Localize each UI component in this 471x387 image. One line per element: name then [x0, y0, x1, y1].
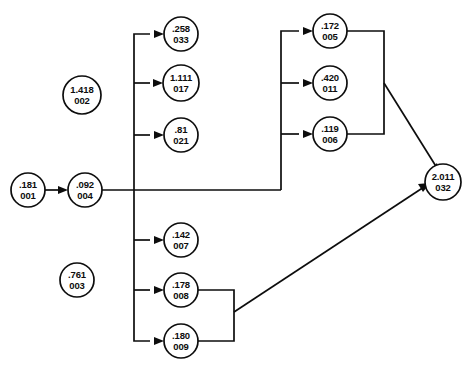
edge-collector-upper: [347, 31, 384, 134]
node-006[interactable]: .119 006: [313, 117, 347, 151]
node-005-code: 005: [322, 31, 338, 42]
node-032-value: 2.011: [432, 171, 456, 182]
arrowhead-033: [154, 30, 164, 38]
node-032[interactable]: 2.011 032: [425, 164, 461, 200]
edge-left-trunk-lower: [134, 190, 150, 341]
node-004-code: 004: [77, 190, 93, 201]
node-006-value: .119: [321, 123, 339, 134]
node-009-code: 009: [173, 341, 189, 352]
node-006-code: 006: [322, 134, 338, 145]
node-017-value: 1.111: [170, 72, 193, 83]
node-001-code: 001: [20, 190, 36, 201]
node-001[interactable]: .181 001: [11, 173, 45, 207]
node-005[interactable]: .172 005: [313, 14, 347, 48]
arrowhead-021: [154, 131, 164, 139]
node-011-value: .420: [321, 72, 339, 83]
arrowhead-008: [154, 286, 164, 294]
arrowhead-005: [303, 27, 313, 35]
network-diagram-canvas: .181 001 .092 004 1.418 002 .761 003 .25: [0, 0, 471, 387]
node-003[interactable]: .761 003: [60, 263, 94, 297]
node-008[interactable]: .178 008: [164, 273, 198, 307]
node-002[interactable]: 1.418 002: [63, 76, 101, 114]
node-033-code: 033: [173, 34, 189, 45]
node-032-code: 032: [435, 182, 451, 193]
node-002-code: 002: [74, 95, 90, 106]
node-021-value: .81: [175, 124, 189, 135]
node-017-code: 017: [173, 83, 189, 94]
node-004[interactable]: .092 004: [68, 173, 102, 207]
node-008-value: .178: [172, 279, 190, 290]
arrowhead-011: [303, 79, 313, 87]
node-007[interactable]: .142 007: [164, 223, 198, 257]
edge-left-trunk-upper: [134, 34, 150, 190]
node-003-code: 003: [69, 280, 85, 291]
edge-right-trunk-feed: [281, 31, 299, 190]
edge-collector-lower: [198, 290, 234, 341]
arrowhead-007: [154, 236, 164, 244]
node-011-code: 011: [322, 83, 338, 94]
node-008-code: 008: [173, 290, 189, 301]
arrowhead-004: [58, 186, 68, 194]
node-layer: .181 001 .092 004 1.418 002 .761 003 .25: [11, 14, 461, 358]
edge-upper-collector-to-032: [384, 83, 437, 168]
arrowhead-009: [154, 337, 164, 345]
node-001-value: .181: [19, 179, 38, 190]
node-005-value: .172: [321, 20, 339, 31]
node-009[interactable]: .180 009: [164, 324, 198, 358]
node-007-value: .142: [172, 229, 190, 240]
node-033-value: .258: [172, 23, 190, 34]
arrowhead-006: [303, 130, 313, 138]
node-021-code: 021: [173, 135, 189, 146]
node-021[interactable]: .81 021: [164, 118, 198, 152]
edge-layer: [45, 27, 441, 345]
node-002-value: 1.418: [70, 84, 93, 95]
node-033[interactable]: .258 033: [164, 17, 198, 51]
edge-lower-collector-to-032: [234, 187, 424, 312]
arrowhead-017: [153, 79, 163, 87]
node-007-code: 007: [173, 240, 189, 251]
node-004-value: .092: [76, 179, 94, 190]
network-diagram: .181 001 .092 004 1.418 002 .761 003 .25: [0, 0, 471, 387]
node-011[interactable]: .420 011: [313, 66, 347, 100]
node-003-value: .761: [68, 269, 87, 280]
node-017[interactable]: 1.111 017: [163, 65, 199, 101]
node-009-value: .180: [172, 330, 190, 341]
